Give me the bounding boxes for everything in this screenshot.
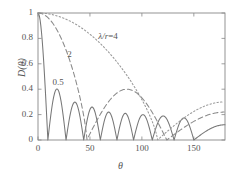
series-line-lambda_over_r_0p5 <box>38 13 225 140</box>
annotation-lambda_over_r_0p5: 0.5 <box>53 77 64 87</box>
y-tick-label: 1 <box>7 7 33 17</box>
x-tick-label: 150 <box>181 143 207 153</box>
chart-figure: D(θ) θ 00.20.40.60.81 050100150 λ/r=420.… <box>0 0 236 176</box>
x-axis-label: θ <box>118 160 123 171</box>
x-tick-label: 0 <box>25 143 51 153</box>
annotation-lambda_over_r_2: 2 <box>67 49 72 59</box>
plot-frame <box>38 13 225 140</box>
x-tick-label: 100 <box>129 143 155 153</box>
y-tick-label: 0.8 <box>7 32 33 42</box>
annotation-lambda_over_r_4: λ/r=4 <box>98 31 117 41</box>
x-tick-label: 50 <box>77 143 103 153</box>
series-line-lambda_over_r_4 <box>38 13 224 140</box>
y-tick-label: 0.4 <box>7 83 33 93</box>
y-tick-label: 0.2 <box>7 109 33 119</box>
y-tick-label: 0.6 <box>7 58 33 68</box>
series-line-lambda_over_r_2 <box>38 13 224 140</box>
